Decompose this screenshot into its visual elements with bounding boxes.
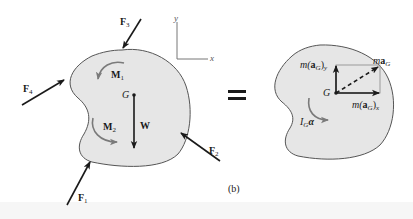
label-m2: M2: [103, 122, 116, 134]
label-m1: M1: [111, 70, 124, 82]
xy-axes: [177, 22, 208, 59]
label-weight: W: [140, 121, 150, 131]
figure-caption: (b): [228, 184, 240, 194]
label-ma-g: maG: [373, 56, 390, 68]
label-f2: F2: [209, 146, 219, 158]
newton-euler-diagram: F3 F4 F2 F1 M1 M2 W G y x G maG m(aG)y m…: [0, 0, 413, 219]
center-of-mass-dot-right: [334, 91, 338, 95]
label-g-left: G: [122, 90, 129, 100]
rigid-body-left: [70, 49, 190, 166]
axis-label-y: y: [174, 14, 178, 23]
axis-label-x: x: [210, 54, 214, 63]
label-ma-gy: m(aG)y: [300, 60, 327, 72]
label-g-right: G: [323, 88, 330, 98]
label-ig-alpha: IGα: [300, 117, 314, 129]
label-f1: F1: [78, 193, 88, 205]
equals-sign: [228, 90, 246, 100]
label-f3: F3: [120, 17, 130, 29]
label-ma-gx: m(aG)x: [352, 100, 379, 112]
label-f4: F4: [23, 84, 33, 96]
